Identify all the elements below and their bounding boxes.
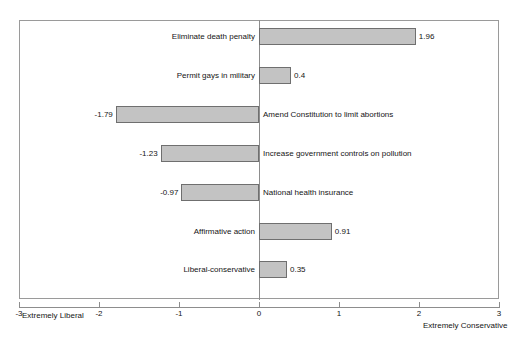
- bar-value-label: -0.97: [160, 184, 178, 201]
- zero-baseline: [259, 20, 260, 300]
- bar: [259, 261, 287, 278]
- axis-label-extremely-conservative: Extremely Conservative: [423, 321, 507, 330]
- bar: [161, 145, 259, 162]
- bar-category-label: Eliminate death penalty: [172, 28, 255, 45]
- bar-value-label: -1.79: [95, 106, 113, 123]
- bar-category-label: National health insurance: [263, 184, 353, 201]
- x-axis-tick-label: 3: [484, 309, 514, 318]
- x-axis-tick: [419, 302, 420, 308]
- x-axis-tick-label: -1: [164, 309, 194, 318]
- x-axis-tick: [339, 302, 340, 308]
- bar: [259, 223, 332, 240]
- bar-value-label: 0.35: [290, 261, 306, 278]
- x-axis-tick: [259, 302, 260, 308]
- bar-value-label: 0.4: [294, 67, 305, 84]
- bar-category-label: Liberal-conservative: [183, 261, 255, 278]
- bar-category-label: Amend Constitution to limit abortions: [263, 106, 393, 123]
- x-axis-tick: [499, 302, 500, 308]
- x-axis-tick-label: -2: [84, 309, 114, 318]
- bar: [259, 28, 416, 45]
- x-axis-tick-label: 1: [324, 309, 354, 318]
- bar-category-label: Affirmative action: [194, 223, 255, 240]
- bar-value-label: 0.91: [335, 223, 351, 240]
- bar-value-label: 1.96: [419, 28, 435, 45]
- x-axis-tick-label: 0: [244, 309, 274, 318]
- x-axis-tick: [179, 302, 180, 308]
- x-axis-tick-label: 2: [404, 309, 434, 318]
- bar-category-label: Permit gays in military: [177, 67, 255, 84]
- bar: [181, 184, 259, 201]
- bar-chart: 1.96Eliminate death penalty0.4Permit gay…: [0, 0, 523, 344]
- bar-value-label: -1.23: [139, 145, 157, 162]
- bar: [259, 67, 291, 84]
- bar-category-label: Increase government controls on pollutio…: [263, 145, 412, 162]
- bar: [116, 106, 259, 123]
- x-axis-tick: [99, 302, 100, 308]
- x-axis-tick: [19, 302, 20, 308]
- axis-label-extremely-liberal: Extremely Liberal: [22, 311, 84, 320]
